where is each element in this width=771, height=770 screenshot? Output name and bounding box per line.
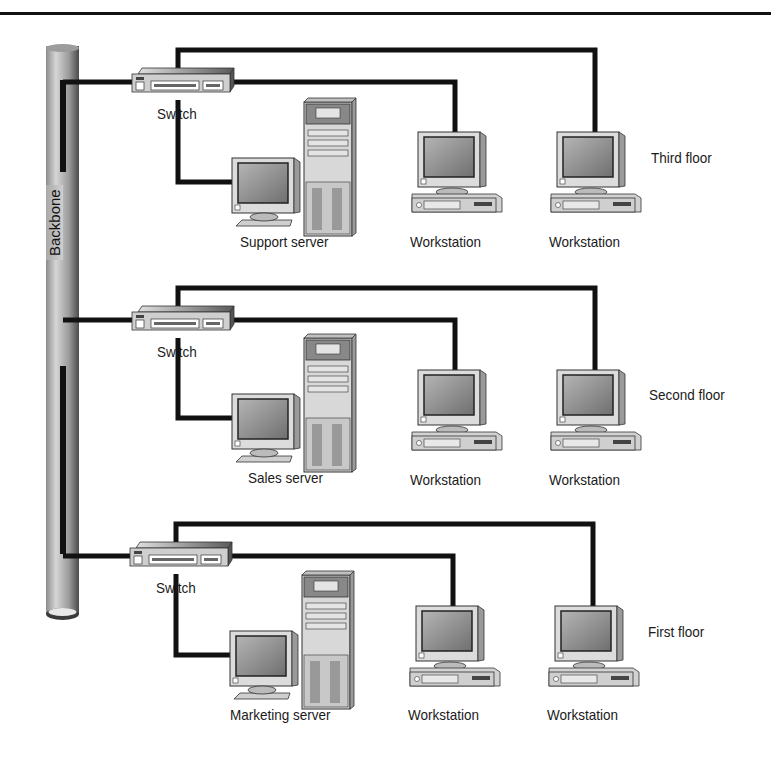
workstation-label: Workstation — [410, 471, 481, 488]
server-sales — [232, 334, 356, 472]
switch-label: Switch — [157, 105, 197, 122]
workstation-label: Workstation — [549, 233, 620, 250]
server-label: Support server — [240, 233, 329, 250]
workstation-first-1 — [410, 606, 500, 686]
server-support — [232, 98, 356, 236]
workstation-label: Workstation — [549, 471, 620, 488]
workstation-second-1 — [412, 370, 502, 450]
switch-third-floor — [132, 68, 234, 92]
workstation-third-1 — [412, 132, 502, 212]
workstation-label: Workstation — [547, 706, 618, 723]
server-marketing — [230, 571, 354, 709]
switch-label: Switch — [157, 343, 197, 360]
workstation-second-2 — [551, 370, 641, 450]
switch-second-floor — [132, 306, 234, 330]
switch-label: Switch — [156, 579, 196, 596]
server-label: Marketing server — [230, 706, 331, 723]
floor-label-first: First floor — [648, 623, 704, 640]
switch-first-floor — [130, 542, 232, 566]
floor-label-second: Second floor — [649, 386, 725, 403]
server-label: Sales server — [248, 469, 323, 486]
workstation-first-2 — [549, 606, 639, 686]
network-drawing — [0, 0, 771, 770]
workstation-third-2 — [551, 132, 641, 212]
workstation-label: Workstation — [408, 706, 479, 723]
network-diagram: Backbone Switch Support server Workstati… — [0, 0, 771, 770]
workstation-label: Workstation — [410, 233, 481, 250]
backbone — [46, 44, 79, 620]
floor-label-third: Third floor — [651, 149, 712, 166]
backbone-label: Backbone — [46, 185, 63, 260]
